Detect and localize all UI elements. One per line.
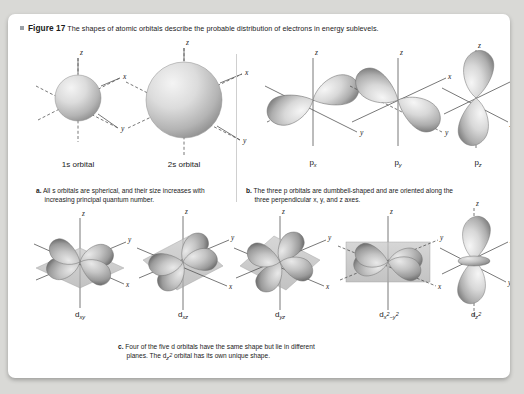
- panel-b-text: The three p orbitals are dumbbell-shaped…: [254, 187, 453, 203]
- svg-text:y: y: [439, 234, 444, 242]
- svg-text:y: y: [120, 124, 125, 133]
- panel-divider: [236, 54, 237, 202]
- svg-text:y: y: [242, 136, 247, 145]
- svg-text:z: z: [314, 48, 318, 57]
- svg-text:x: x: [447, 72, 452, 81]
- svg-text:x: x: [244, 68, 249, 77]
- orbital-px: z x y: [262, 48, 367, 146]
- svg-text:y: y: [359, 128, 364, 137]
- label-dyz-orbital: dyz: [250, 310, 310, 320]
- panel-c-blurb: c. Four of the five d orbitals have the …: [118, 342, 408, 364]
- panel-c-text-line2-post: orbital has its own unique shape.: [172, 352, 270, 359]
- label-dx2-y2-orbital: dx2−y2: [356, 310, 422, 320]
- svg-text:y: y: [127, 236, 132, 244]
- panel-a-blurb: a. All s orbitals are spherical, and the…: [36, 186, 232, 205]
- dx2y2-sup-2: 2: [396, 311, 399, 317]
- svg-text:z: z: [184, 208, 188, 216]
- panel-b-blurb: b. The three p orbitals are dumbbell-sha…: [246, 186, 462, 205]
- square-bullet-icon: [20, 26, 24, 30]
- label-1s-orbital: 1s orbital: [38, 160, 118, 169]
- orbital-pz: z x y: [442, 41, 510, 150]
- svg-text:x: x: [437, 283, 442, 291]
- label-dxz-orbital: dxz: [153, 310, 213, 320]
- svg-text:y: y: [327, 234, 332, 242]
- dxy-sub: xy: [79, 314, 85, 320]
- figure-caption-text: The shapes of atomic orbitals describe t…: [65, 24, 378, 33]
- svg-text:z: z: [281, 208, 285, 216]
- svg-text:x: x: [125, 281, 130, 289]
- orbital-dyz: z y x: [234, 208, 332, 310]
- orbital-py: z x y: [350, 48, 452, 146]
- panel-c-text-line1: Four of the five d orbitals have the sam…: [125, 343, 314, 350]
- svg-text:z: z: [389, 208, 393, 216]
- svg-text:x: x: [122, 72, 127, 81]
- panel-c-key: c.: [118, 343, 124, 350]
- svg-text:y: y: [444, 128, 449, 137]
- px-sub: x: [314, 162, 317, 168]
- svg-text:z: z: [81, 210, 85, 218]
- panel-c-text-line2-pre: planes. The d: [127, 352, 167, 359]
- orbital-dxy: z y x: [34, 210, 132, 308]
- dz2-sup: 2: [478, 311, 481, 317]
- svg-text:x: x: [228, 283, 233, 291]
- svg-text:x: x: [509, 237, 510, 245]
- orbital-dx2-y2: z y x: [338, 208, 444, 310]
- panel-a-key: a.: [36, 187, 42, 194]
- orbital-2s: z x y: [126, 40, 249, 156]
- label-pz-orbital: pz: [448, 158, 508, 168]
- svg-text:z: z: [185, 40, 189, 47]
- label-2s-orbital: 2s orbital: [144, 160, 224, 169]
- figure-card: Figure 17 The shapes of atomic orbitals …: [8, 14, 510, 378]
- label-px-orbital: px: [283, 158, 343, 168]
- orbital-dxz: z y x: [137, 208, 235, 310]
- figure-label: Figure 17: [28, 23, 65, 33]
- panel-b-key: b.: [246, 187, 252, 194]
- dyz-sub: yz: [279, 314, 285, 320]
- svg-text:z: z: [79, 48, 83, 57]
- dxz-sub: xz: [182, 314, 188, 320]
- py-sub: y: [399, 162, 402, 168]
- svg-text:x: x: [325, 283, 330, 291]
- orbital-dz2: z x y: [440, 200, 510, 316]
- svg-text:y: y: [230, 234, 235, 242]
- figure-caption: Figure 17 The shapes of atomic orbitals …: [20, 23, 500, 34]
- svg-text:y: y: [509, 118, 510, 127]
- label-py-orbital: py: [368, 158, 428, 168]
- svg-text:z: z: [475, 200, 479, 208]
- svg-text:z: z: [399, 48, 403, 57]
- label-dz2-orbital: dz2: [446, 310, 506, 320]
- pz-sub: z: [479, 162, 482, 168]
- svg-text:z: z: [477, 41, 481, 50]
- svg-text:y: y: [507, 279, 510, 287]
- panel-a-text: All s orbitals are spherical, and their …: [43, 187, 205, 203]
- label-dxy-orbital: dxy: [50, 310, 110, 320]
- orbital-1s: z x y: [36, 48, 127, 142]
